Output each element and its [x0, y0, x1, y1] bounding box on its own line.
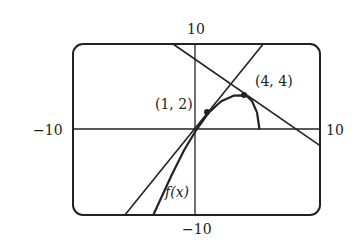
x-min-label: −10: [33, 123, 63, 137]
annotation-point-4-4: (4, 4): [255, 74, 293, 88]
point-1-2: [204, 109, 210, 115]
annotation-fx: f(x): [165, 185, 189, 199]
y-max-label: 10: [187, 22, 205, 36]
annotation-point-1-2: (1, 2): [155, 97, 193, 111]
x-max-label: 10: [326, 123, 344, 137]
point-4-4: [241, 92, 247, 98]
y-min-label: −10: [182, 222, 212, 236]
